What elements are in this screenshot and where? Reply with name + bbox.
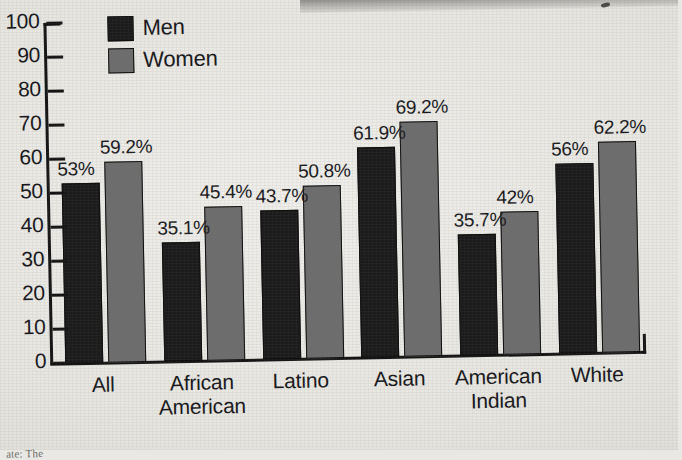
legend-swatch-men-icon	[107, 16, 133, 42]
y-axis-tick-label: 70	[0, 111, 42, 136]
y-axis-tick-label: 100	[0, 9, 40, 34]
bar-men-white	[555, 162, 597, 353]
bar-value-label: 59.2%	[100, 135, 153, 158]
y-axis-tick-label: 40	[0, 213, 44, 238]
y-axis-tick	[53, 327, 69, 330]
bar-men-all	[62, 183, 104, 364]
x-axis-category-label: White	[538, 362, 657, 388]
footnote-text: ate: The	[6, 447, 43, 460]
bar-chart-figure: 1009080706050403020100 Men Women ate: Th…	[0, 0, 682, 457]
legend-item-women: Women	[108, 42, 218, 76]
bar-value-label: 35.1%	[157, 216, 210, 239]
legend-label-women: Women	[143, 45, 218, 72]
y-axis-tick-label: 30	[0, 247, 44, 272]
y-axis-tick	[51, 259, 67, 262]
y-axis-tick-label: 0	[2, 349, 46, 374]
bar-value-label: 45.4%	[199, 180, 252, 203]
y-axis-tick-label: 90	[0, 43, 40, 68]
x-axis-category-line: Indian	[439, 387, 558, 413]
y-axis-tick-label: 20	[1, 281, 45, 306]
legend: Men Women	[107, 10, 218, 76]
bar-women-african-american	[204, 206, 245, 361]
y-axis-tick-label: 10	[1, 315, 45, 340]
bar-women-white	[598, 141, 640, 353]
bar-men-latino	[260, 210, 301, 359]
bar-women-asian	[400, 121, 443, 357]
y-axis-tick	[50, 191, 66, 194]
y-axis-tick	[51, 225, 67, 228]
legend-label-men: Men	[142, 14, 185, 41]
bar-value-label: 43.7%	[255, 185, 308, 208]
bar-women-latino	[302, 185, 343, 358]
bar-value-label: 42%	[496, 186, 534, 209]
legend-item-men: Men	[107, 10, 217, 44]
bar-women-american-indian	[501, 211, 542, 355]
y-axis-tick-label: 50	[0, 179, 43, 204]
bar-women-all	[104, 161, 146, 363]
bar-value-label: 62.2%	[593, 115, 646, 138]
y-axis-tick-label: 80	[0, 77, 41, 102]
bar-value-label: 50.8%	[298, 160, 351, 183]
bar-men-asian	[357, 146, 399, 357]
bar-value-label: 53%	[57, 158, 95, 181]
bar-men-african-american	[162, 241, 202, 361]
bar-value-label: 35.7%	[454, 208, 507, 231]
y-axis-tick-label: 60	[0, 145, 42, 170]
y-axis-tick	[52, 293, 68, 296]
y-axis-tick	[48, 89, 64, 92]
bar-men-american-indian	[458, 233, 498, 355]
y-axis-tick	[48, 123, 64, 126]
x-axis-category-line: White	[538, 362, 657, 388]
bar-value-label: 69.2%	[395, 96, 448, 119]
x-axis-category-line: American	[143, 393, 262, 419]
bar-value-label: 56%	[551, 138, 589, 161]
y-axis-ticks: 1009080706050403020100	[0, 6, 50, 367]
y-axis-tick	[46, 22, 62, 25]
bar-value-label: 61.9%	[353, 121, 406, 144]
y-axis-tick	[47, 55, 63, 58]
y-axis-tick	[53, 361, 69, 364]
legend-swatch-women-icon	[108, 48, 134, 74]
